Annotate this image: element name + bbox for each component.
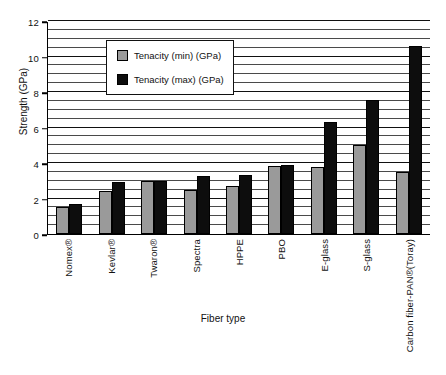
x-axis-label-cell: PBO [260,237,303,312]
x-axis-tick-label: Nomex® [63,239,74,277]
bar-min [56,207,69,234]
bar-group [260,22,302,234]
bar-max [281,165,294,234]
bar-max [324,122,337,234]
x-axis-labels: Nomex®Kevlar®Twaron®SpectraHPPEPBOE-glas… [47,237,430,312]
x-axis-label-cell: Spectra [175,237,218,312]
bar-max [154,181,167,234]
bar-max [366,100,379,234]
chart-legend: Tenacity (min) (GPa)Tenacity (max) (GPa) [106,40,234,95]
bar-min [268,166,281,234]
y-axis-tick-label: 6 [34,123,39,134]
legend-label: Tenacity (min) (GPa) [134,50,221,61]
bar-group [345,22,387,234]
x-axis-tick-label: Spectra [190,239,201,272]
x-axis-tick-label: PBO [276,239,287,259]
bar-min [184,190,197,234]
plot-area [47,22,430,235]
legend-swatch-min [117,50,128,61]
x-axis-label-cell: Kevlar® [90,237,133,312]
x-axis-title: Fiber type [0,313,446,324]
y-axis-tick-label: 10 [28,52,39,63]
bar-max [409,46,422,234]
x-axis-tick-label: S-glass [361,239,372,271]
bar-min [226,186,239,234]
y-axis-tick-label: 4 [34,159,39,170]
y-axis-ticks: 024681012 [0,22,47,235]
bar-min [396,172,409,234]
x-axis-tick-label: Kevlar® [105,239,116,274]
x-axis-label-cell: S-glass [345,237,388,312]
y-axis-tick-label: 0 [34,230,39,241]
x-axis-tick-label: HPPE [233,239,244,265]
x-axis-label-cell: Carbon fiber-PAN®(Toray) [388,237,431,312]
x-axis-tick-label: E-glass [318,239,329,271]
bar-group [388,22,430,234]
bar-max [69,204,82,234]
legend-swatch-max [117,74,128,85]
bar-max [197,176,210,234]
y-axis-tick-label: 8 [34,88,39,99]
bar-min [353,145,366,234]
bar-group [303,22,345,234]
x-axis-label-cell: E-glass [302,237,345,312]
bar-min [99,191,112,234]
bar-max [112,182,125,234]
y-axis-tick-label: 12 [28,17,39,28]
x-axis-label-cell: Twaron® [132,237,175,312]
legend-item: Tenacity (max) (GPa) [117,74,225,85]
legend-item: Tenacity (min) (GPa) [117,50,225,61]
x-axis-label-cell: HPPE [217,237,260,312]
y-axis-tick-label: 2 [34,194,39,205]
x-axis-tick-label: Carbon fiber-PAN®(Toray) [403,239,414,352]
legend-label: Tenacity (max) (GPa) [134,74,224,85]
bar-max [239,175,252,234]
x-axis-tick-label: Twaron® [148,239,159,278]
bar-group [48,22,90,234]
gridline-major [48,20,430,21]
bar-min [311,167,324,234]
bar-chart: Strength (GPa) 024681012 Tenacity (min) … [0,0,446,375]
x-axis-label-cell: Nomex® [47,237,90,312]
bar-min [141,181,154,234]
